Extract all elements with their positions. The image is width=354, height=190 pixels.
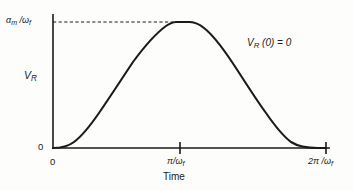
y-axis-title: VR bbox=[24, 70, 37, 83]
figure-container: αm /ωf 0 VR 0 π/ωf 2π /ωf Time VR (0) = … bbox=[0, 0, 354, 190]
x-tick-end-label: 2π /ωf bbox=[308, 157, 333, 167]
annotation-text: VR (0) = 0 bbox=[247, 37, 291, 48]
y-axis-title-text: VR bbox=[24, 69, 37, 81]
y-tick-max-label: αm /ωf bbox=[6, 16, 31, 26]
x-axis-title: Time bbox=[163, 172, 185, 182]
x-tick-mid-label: π/ωf bbox=[167, 157, 185, 167]
x-tick-zero-label: 0 bbox=[50, 157, 55, 167]
y-tick-zero-label: 0 bbox=[38, 142, 43, 152]
initial-condition-annotation: VR (0) = 0 bbox=[247, 38, 291, 50]
y-tick-max-text: αm /ωf bbox=[6, 15, 31, 25]
